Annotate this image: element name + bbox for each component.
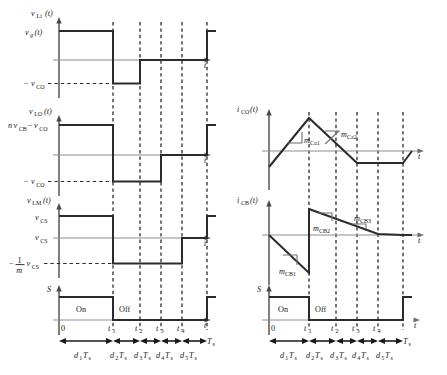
nvco-v: v — [34, 121, 38, 130]
d2-sub: 2 — [115, 355, 118, 361]
mCB1-sub: CB1 — [285, 271, 296, 277]
vlm-low-one: 1 — [18, 256, 22, 265]
r-tick-t2-sub: 2 — [335, 328, 338, 334]
nvcb-sub: CB — [19, 126, 27, 132]
S-left-axis-label: S — [47, 285, 51, 294]
v-LM-label-v: v — [27, 196, 31, 205]
v-LO-vco-minus: − — [24, 177, 29, 186]
r-d3-sub: 3 — [335, 355, 338, 361]
tick-t1-sub: 1 — [112, 328, 115, 334]
d1-sub: 1 — [79, 355, 82, 361]
r-tick-t3-sub: 3 — [356, 328, 359, 334]
nvcb-v: v — [14, 121, 18, 130]
vco-neg-v: v — [31, 79, 35, 88]
v-Li-label-sub: Li — [37, 13, 43, 19]
mCB3-sub: CB3 — [360, 218, 371, 224]
r-d4-sub: 4 — [357, 355, 360, 361]
tick-t3-sub: 3 — [160, 328, 163, 334]
r-d1-sub: 1 — [285, 355, 288, 361]
vcs-hi-v: v — [35, 213, 39, 222]
r-d2-sub: 2 — [311, 355, 314, 361]
S-left-state-on: On — [76, 305, 86, 314]
i-CB-label-paren: (t) — [250, 196, 258, 205]
i-CB-label-sub: CB — [241, 200, 249, 206]
r-d5-sub: 5 — [381, 355, 384, 361]
v-LO-vco-v: v — [31, 177, 35, 186]
S-right-state-on: On — [278, 305, 288, 314]
vcs-hi-sub: CS — [40, 218, 47, 224]
nvcb-n: n — [8, 121, 12, 130]
figure-svg: t v Li (t) v g (t) − v CO — [0, 0, 447, 375]
vco-neg-sub: CO — [36, 84, 45, 90]
S-left-state-off: Off — [119, 305, 130, 314]
vg-label-v: v — [25, 28, 29, 37]
i-CO-label-paren: (t) — [250, 105, 258, 114]
nvcb-minus: − — [28, 121, 33, 130]
d4-sub: 4 — [161, 355, 164, 361]
tick-t2-sub: 2 — [139, 328, 142, 334]
mCB2-sub: CB2 — [319, 228, 330, 234]
v-Li-label-v: v — [31, 9, 35, 18]
waveform-figure: t v Li (t) v g (t) − v CO — [0, 0, 447, 375]
vcs-mid-v: v — [35, 233, 39, 242]
vcs-mid-sub: CS — [40, 238, 47, 244]
v-LM-label-paren: (t) — [43, 196, 51, 205]
r-tick-t4-sub: 4 — [377, 328, 380, 334]
v-LO-label-v: v — [29, 107, 33, 116]
v-LM-label-sub: LM — [32, 200, 42, 206]
S-left-origin-label: 0 — [61, 324, 65, 333]
vlm-low-minus: − — [9, 259, 14, 268]
d3-sub: 3 — [139, 355, 142, 361]
d5-sub: 5 — [185, 355, 188, 361]
S-right-origin-label: 0 — [271, 324, 275, 333]
vco-neg-minus: − — [24, 79, 29, 88]
v-Li-label-paren: (t) — [45, 9, 53, 18]
i-CO-label-sub: CO — [241, 109, 250, 115]
vlm-low-sub: CS — [32, 264, 39, 270]
S-right-state-off: Off — [315, 305, 326, 314]
mCa2-sub: Ca2 — [347, 134, 357, 140]
v-LO-vco-sub: CO — [36, 182, 45, 188]
nvco-sub: CO — [39, 126, 48, 132]
figure-background — [0, 0, 447, 375]
vlm-low-v: v — [27, 259, 31, 268]
mCa1-sub: Ca1 — [310, 140, 320, 146]
v-LO-label-sub: LO — [34, 111, 43, 117]
vg-label-paren: (t) — [35, 28, 43, 37]
vlm-low-m: m — [16, 266, 22, 275]
vg-label-sub: g — [30, 32, 33, 38]
v-Li-level-high-label: v g (t) — [25, 28, 43, 38]
r-tick-t1-sub: 1 — [308, 328, 311, 334]
S-right-axis-label: S — [257, 285, 261, 294]
v-LO-label-paren: (t) — [44, 107, 52, 116]
tick-t4-sub: 4 — [181, 328, 184, 334]
